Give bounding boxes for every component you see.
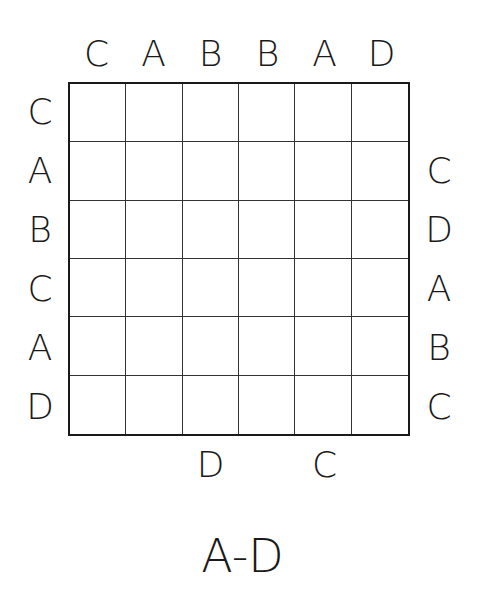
right-clue: A (419, 271, 459, 307)
top-clue: C (77, 36, 117, 72)
puzzle-title: A-D (0, 533, 485, 579)
grid-cell[interactable] (352, 142, 408, 200)
grid-cell[interactable] (70, 84, 126, 142)
grid-cell[interactable] (295, 84, 351, 142)
grid-cell[interactable] (183, 142, 239, 200)
top-clue: A (134, 36, 174, 72)
grid-cell[interactable] (239, 317, 295, 375)
grid-cell[interactable] (295, 259, 351, 317)
left-clue: A (20, 330, 60, 366)
grid-cell[interactable] (126, 317, 182, 375)
right-clue: D (419, 212, 459, 248)
top-clue: B (191, 36, 231, 72)
grid-cell[interactable] (295, 376, 351, 434)
grid-cell[interactable] (352, 376, 408, 434)
grid-cell[interactable] (295, 142, 351, 200)
grid-cell[interactable] (126, 84, 182, 142)
grid-cell[interactable] (126, 376, 182, 434)
grid-cell[interactable] (352, 259, 408, 317)
right-clue: C (419, 389, 459, 425)
left-clue: A (20, 153, 60, 189)
grid-cell[interactable] (126, 259, 182, 317)
grid-cell[interactable] (70, 317, 126, 375)
grid-cell[interactable] (183, 201, 239, 259)
grid-cell[interactable] (183, 259, 239, 317)
bottom-clue: D (191, 447, 231, 483)
left-clue: C (20, 271, 60, 307)
top-clue: B (248, 36, 288, 72)
grid-cell[interactable] (183, 376, 239, 434)
bottom-clue: C (305, 447, 345, 483)
grid-cell[interactable] (126, 142, 182, 200)
grid-cell[interactable] (70, 259, 126, 317)
grid-cell[interactable] (352, 201, 408, 259)
grid-cell[interactable] (295, 317, 351, 375)
top-clue: A (305, 36, 345, 72)
grid-cell[interactable] (70, 376, 126, 434)
right-clue: B (419, 330, 459, 366)
left-clue: D (20, 389, 60, 425)
grid-cell[interactable] (70, 201, 126, 259)
left-clue: C (20, 94, 60, 130)
grid-cell[interactable] (239, 142, 295, 200)
grid-cell[interactable] (239, 259, 295, 317)
grid-cell[interactable] (183, 84, 239, 142)
grid-cell[interactable] (295, 201, 351, 259)
top-clue: D (362, 36, 402, 72)
grid-cell[interactable] (70, 142, 126, 200)
right-clue: C (419, 153, 459, 189)
grid-cell[interactable] (239, 84, 295, 142)
grid-cell[interactable] (239, 201, 295, 259)
puzzle-grid (68, 82, 410, 436)
grid-cell[interactable] (126, 201, 182, 259)
grid-cell[interactable] (239, 376, 295, 434)
grid-cell[interactable] (183, 317, 239, 375)
grid-cell[interactable] (352, 317, 408, 375)
left-clue: B (20, 212, 60, 248)
grid-cell[interactable] (352, 84, 408, 142)
